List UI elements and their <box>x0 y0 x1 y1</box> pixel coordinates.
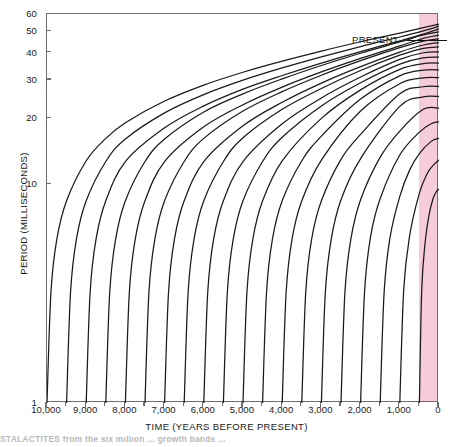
growth-period-curve <box>47 24 439 403</box>
x-tick-mark-major <box>359 402 360 408</box>
present-annotation: PRESENT <box>352 34 448 47</box>
x-tick-mark-minor <box>222 402 223 406</box>
x-tick-mark-minor <box>104 402 105 406</box>
caption-strip: STALACTITES from the six million ... gro… <box>0 436 453 447</box>
y-tick-mark <box>46 183 51 184</box>
y-tick-mark <box>46 30 51 31</box>
x-tick-mark-minor <box>183 402 184 406</box>
y-tick-mark <box>46 78 51 79</box>
x-tick-mark-minor <box>143 402 144 406</box>
growth-period-curve <box>380 138 439 403</box>
growth-period-curve <box>419 189 439 403</box>
growth-period-curve <box>67 26 439 403</box>
x-axis-tick-labels: 10,0009,0008,0007,0006,0005,0004,0003,00… <box>0 404 453 420</box>
growth-period-curve <box>145 39 439 403</box>
y-tick-mark <box>46 51 51 52</box>
x-tick-mark-major <box>124 402 125 408</box>
x-tick-mark-minor <box>261 402 262 406</box>
growth-period-curve <box>86 29 439 403</box>
y-tick-label: 40 <box>26 46 37 57</box>
x-tick-mark-major <box>202 402 203 408</box>
present-leader-line <box>407 40 447 41</box>
growth-period-curve <box>361 122 439 403</box>
growth-period-curve <box>125 35 439 403</box>
x-tick-mark-major <box>241 402 242 408</box>
curve-layer <box>47 14 439 403</box>
x-tick-mark-major <box>398 402 399 408</box>
x-tick-mark-major <box>437 402 438 408</box>
x-tick-mark-major <box>85 402 86 408</box>
plot-area <box>46 13 438 402</box>
x-tick-mark-major <box>320 402 321 408</box>
growth-period-curve <box>106 32 439 403</box>
present-annotation-label: PRESENT <box>352 34 399 45</box>
x-tick-mark-major <box>163 402 164 408</box>
growth-period-curve <box>184 47 439 403</box>
x-tick-mark-major <box>281 402 282 408</box>
x-tick-mark-minor <box>300 402 301 406</box>
x-tick-mark-minor <box>418 402 419 406</box>
growth-period-curve <box>204 52 439 403</box>
y-tick-label: 50 <box>26 25 37 36</box>
y-tick-label: 60 <box>26 8 37 19</box>
x-axis-title: TIME (YEARS BEFORE PRESENT) <box>0 421 453 432</box>
growth-period-curve <box>223 57 439 403</box>
growth-period-curve <box>400 160 439 403</box>
x-tick-mark-minor <box>379 402 380 406</box>
y-tick-label: 20 <box>26 112 37 123</box>
x-tick-mark-minor <box>65 402 66 406</box>
growth-period-curve <box>282 77 439 403</box>
growth-period-curve <box>321 96 439 403</box>
y-axis-title: PERIOD (MILLISECONDS) <box>18 129 29 299</box>
x-tick-mark-major <box>45 402 46 408</box>
figure-root: 1102030405060 PERIOD (MILLISECONDS) 10,0… <box>0 0 453 447</box>
x-tick-mark-minor <box>339 402 340 406</box>
y-tick-label: 30 <box>26 73 37 84</box>
caption-text: STALACTITES from the six million ... gro… <box>0 436 226 444</box>
y-tick-mark <box>46 117 51 118</box>
